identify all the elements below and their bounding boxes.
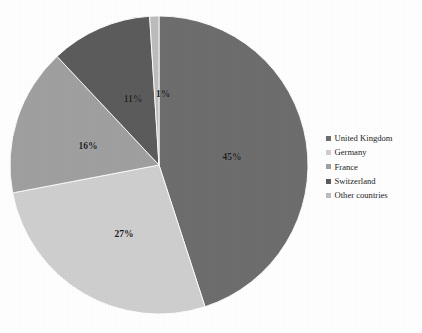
legend-item-label: United Kingdom xyxy=(335,134,393,143)
legend-item-label: France xyxy=(335,163,358,172)
legend-item[interactable]: United Kingdom xyxy=(326,131,420,145)
legend-item-label: Other countries xyxy=(335,191,388,200)
pie-slice-value-label: 45% xyxy=(223,152,242,162)
pie-slice-group xyxy=(10,16,308,314)
pie-slice-value-label: 27% xyxy=(115,229,134,239)
legend-swatch-icon xyxy=(326,193,331,198)
legend-item[interactable]: France xyxy=(326,160,420,174)
legend-swatch-icon xyxy=(326,136,331,141)
legend-item[interactable]: Switzerland xyxy=(326,174,420,188)
legend-swatch-icon xyxy=(326,150,331,155)
pie-slice-value-label: 16% xyxy=(79,141,98,151)
legend-item[interactable]: Germany xyxy=(326,145,420,159)
legend-swatch-icon xyxy=(326,179,331,184)
legend-swatch-icon xyxy=(326,164,331,169)
pie-slice-value-label: 11% xyxy=(124,94,142,104)
chart-legend: United KingdomGermanyFranceSwitzerlandOt… xyxy=(326,131,420,203)
legend-item-label: Germany xyxy=(335,148,367,157)
pie-slice-value-label: 1% xyxy=(156,89,170,99)
legend-item-label: Switzerland xyxy=(335,177,376,186)
legend-item[interactable]: Other countries xyxy=(326,189,420,203)
